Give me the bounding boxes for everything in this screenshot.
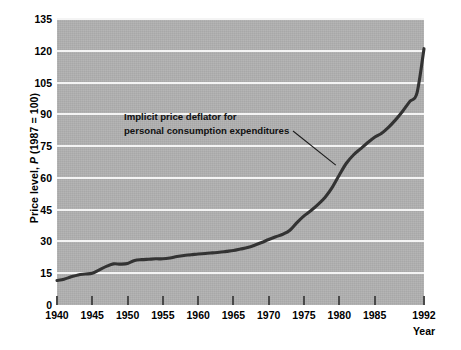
x-axis-title: Year [399, 325, 449, 337]
x-axis-tick-labels: 1940194519501955196019651970197519801985… [0, 0, 461, 350]
price-level-chart-figure: Price level, P (1987 = 100) 015304560759… [0, 0, 461, 350]
series-annotation-line-2: personal consumption expenditures [124, 124, 289, 138]
series-annotation-label: Implicit price deflator for personal con… [124, 110, 289, 138]
series-annotation-line-1: Implicit price deflator for [124, 110, 289, 124]
x-tick-label-1992: 1992 [399, 309, 449, 321]
x-tick-label-1985: 1985 [350, 309, 400, 321]
